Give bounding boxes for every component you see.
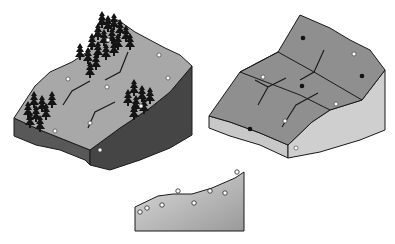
terrain-diagram — [0, 0, 395, 244]
forested-block — [14, 11, 192, 170]
diagram-canvas — [0, 0, 395, 244]
gridded-block — [209, 15, 385, 158]
cross-section-profile — [135, 170, 244, 231]
